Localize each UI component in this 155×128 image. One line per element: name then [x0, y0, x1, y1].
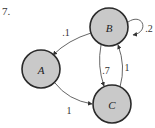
edge-a-to-c [55, 83, 92, 104]
node-label-c: C [108, 99, 116, 111]
edge-b-to-a [53, 33, 91, 55]
edge-label-b-to-c: .7 [102, 65, 110, 76]
node-a: A [22, 50, 60, 88]
edge-label-b-self-loop: .2 [145, 23, 153, 34]
edge-b-self-loop [128, 19, 143, 35]
node-c: C [93, 85, 131, 123]
node-b: B [90, 8, 128, 46]
edge-label-a-to-c: 1 [67, 105, 72, 116]
markov-chain-diagram: .1 .2 .7 1 1 A B C [0, 0, 155, 128]
edge-c-to-b [118, 45, 123, 87]
edge-label-c-to-b: 1 [125, 62, 130, 73]
edge-label-b-to-a: .1 [62, 27, 70, 38]
node-label-b: B [106, 22, 113, 34]
node-label-a: A [37, 64, 45, 76]
